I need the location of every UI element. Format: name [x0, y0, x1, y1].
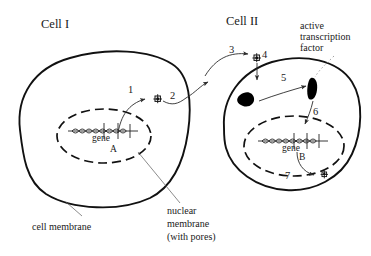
cell-one-gene-label: gene [92, 133, 110, 144]
cell-two-gene-label: gene [282, 143, 300, 154]
cell-membrane-caption: cell membrane [32, 221, 91, 232]
active-tf-caption-line2: transcription [300, 31, 351, 42]
step-number-4: 4 [262, 49, 267, 61]
cell-two-membrane [224, 58, 360, 190]
inactive-transcription-factor [237, 92, 254, 106]
nuclear-membrane-caption-line1: nuclear [167, 205, 196, 216]
arrow-step-3 [205, 54, 248, 76]
step-number-1: 1 [128, 84, 133, 96]
cell-one-title: Cell I [41, 17, 69, 31]
arrow-step-5 [259, 86, 306, 101]
cell-one-gene-letter: A [110, 144, 117, 155]
step-number-5: 5 [281, 72, 286, 84]
arrow-step-1 [118, 99, 145, 133]
step-number-3: 3 [229, 44, 234, 56]
nuclear-membrane-caption-line3: (with pores) [167, 231, 216, 242]
receptor-cell-two [252, 53, 261, 62]
step-number-6: 6 [313, 106, 318, 118]
nuclear-membrane-caption-line2: membrane [167, 218, 209, 229]
step-number-7: 7 [285, 170, 290, 182]
cell-two-title: Cell II [226, 14, 258, 28]
arrow-transport-to-cell-two [186, 82, 208, 98]
active-tf-caption-line1: active [300, 20, 324, 31]
arrow-step-6 [305, 101, 313, 124]
active-transcription-factor [307, 78, 317, 100]
signal-molecule-cell-one [153, 94, 162, 103]
diagram-canvas: Cell I Cell II 1 2 3 4 5 6 7 gene A gene… [0, 0, 371, 256]
active-tf-caption-line3: factor [300, 42, 323, 53]
cell-two-gene-letter: B [299, 152, 305, 163]
gene-b-product [321, 170, 328, 178]
active-tf-leader [315, 56, 334, 77]
step-number-2: 2 [170, 90, 175, 102]
